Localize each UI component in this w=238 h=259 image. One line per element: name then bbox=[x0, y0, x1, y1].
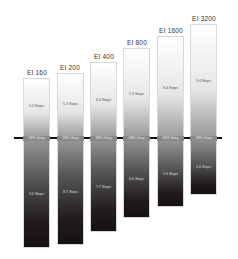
bar-ei3200 bbox=[190, 24, 217, 195]
upper-stops-ei800: 7.4 Stops bbox=[123, 92, 150, 96]
grey-tag-ei800: 18% Grey bbox=[123, 136, 150, 141]
grey-tag-ei1600: 18% Grey bbox=[157, 136, 184, 141]
bar-label-ei400: EI 400 bbox=[84, 53, 124, 60]
bar-ei400 bbox=[90, 62, 117, 232]
bar-ei200 bbox=[57, 73, 84, 245]
upper-stops-ei200: 5.3 Stops bbox=[57, 102, 84, 106]
upper-stops-ei3200: 9.4 Stops bbox=[190, 79, 217, 83]
upper-stops-ei400: 6.3 Stops bbox=[90, 98, 117, 102]
bar-label-ei1600: EI 1600 bbox=[151, 27, 191, 34]
grey-tag-ei400: 18% Grey bbox=[90, 136, 117, 141]
upper-stops-ei1600: 8.4 Stops bbox=[157, 86, 184, 90]
upper-stops-ei160: 5.0 Stops bbox=[23, 104, 50, 108]
bar-label-ei200: EI 200 bbox=[50, 64, 90, 71]
lower-stops-ei200: 8.7 Stops bbox=[57, 190, 84, 194]
bar-ei1600 bbox=[157, 36, 184, 207]
bar-ei800 bbox=[123, 48, 150, 218]
lower-stops-ei1600: 5.6 Stops bbox=[157, 172, 184, 176]
grey-tag-ei160: 18% Grey bbox=[23, 136, 50, 141]
lower-stops-ei800: 6.6 Stops bbox=[123, 177, 150, 181]
bar-label-ei800: EI 800 bbox=[117, 39, 157, 46]
bar-label-ei3200: EI 3200 bbox=[184, 15, 224, 22]
lower-stops-ei160: 9.0 Stops bbox=[23, 192, 50, 196]
lower-stops-ei400: 7.7 Stops bbox=[90, 185, 117, 189]
grey-tag-ei200: 18% Grey bbox=[57, 136, 84, 141]
lower-stops-ei3200: 4.6 Stops bbox=[190, 165, 217, 169]
grey-tag-ei3200: 18% Grey bbox=[190, 136, 217, 141]
